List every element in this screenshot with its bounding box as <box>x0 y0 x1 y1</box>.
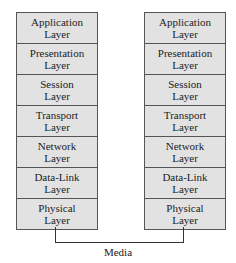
layer-label: Data-Link <box>34 171 79 183</box>
layer-label: Layer <box>172 28 198 40</box>
layer-label: Application <box>159 16 211 28</box>
layer-label: Layer <box>172 152 198 164</box>
layer-label: Layer <box>44 152 70 164</box>
layer-label: Transport <box>164 109 206 121</box>
layer-label: Layer <box>44 28 70 40</box>
layer-label: Network <box>38 140 77 152</box>
layer-label: Presentation <box>158 47 212 59</box>
right-physical-layer: PhysicalLayer <box>145 198 225 229</box>
layer-label: Layer <box>44 90 70 102</box>
layer-label: Layer <box>172 214 198 226</box>
layer-label: Data-Link <box>162 171 207 183</box>
media-connection-line <box>55 227 184 243</box>
media-label: Media <box>0 246 236 258</box>
layer-label: Layer <box>172 121 198 133</box>
layer-label: Application <box>31 16 83 28</box>
left-physical-layer: PhysicalLayer <box>17 198 97 229</box>
right-session-layer: SessionLayer <box>145 74 225 105</box>
layer-label: Physical <box>166 202 203 214</box>
left-protocol-stack: ApplicationLayer PresentationLayer Sessi… <box>16 12 98 230</box>
right-data-link-layer: Data-LinkLayer <box>145 167 225 198</box>
layer-label: Presentation <box>30 47 84 59</box>
left-network-layer: NetworkLayer <box>17 136 97 167</box>
layer-label: Transport <box>36 109 78 121</box>
layer-label: Session <box>168 78 202 90</box>
layer-label: Network <box>166 140 205 152</box>
layer-label: Layer <box>44 59 70 71</box>
layer-label: Layer <box>44 121 70 133</box>
layer-label: Layer <box>172 90 198 102</box>
left-presentation-layer: PresentationLayer <box>17 43 97 74</box>
layer-label: Layer <box>172 183 198 195</box>
left-transport-layer: TransportLayer <box>17 105 97 136</box>
left-data-link-layer: Data-LinkLayer <box>17 167 97 198</box>
left-application-layer: ApplicationLayer <box>17 13 97 43</box>
layer-label: Layer <box>44 214 70 226</box>
layer-label: Session <box>40 78 74 90</box>
right-transport-layer: TransportLayer <box>145 105 225 136</box>
layer-label: Physical <box>38 202 75 214</box>
right-protocol-stack: ApplicationLayer PresentationLayer Sessi… <box>144 12 226 230</box>
right-network-layer: NetworkLayer <box>145 136 225 167</box>
left-session-layer: SessionLayer <box>17 74 97 105</box>
right-presentation-layer: PresentationLayer <box>145 43 225 74</box>
layer-label: Layer <box>172 59 198 71</box>
layer-label: Layer <box>44 183 70 195</box>
right-application-layer: ApplicationLayer <box>145 13 225 43</box>
